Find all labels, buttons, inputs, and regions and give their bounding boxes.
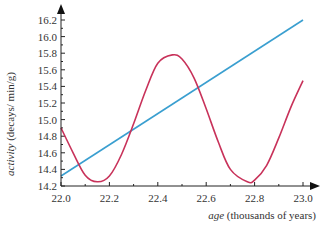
y-tick-label: 16.2: [38, 14, 57, 26]
x-axis-label: age (thousands of years): [208, 209, 316, 222]
x-tick-label: 22.2: [100, 192, 119, 204]
blue-line-series: [61, 20, 303, 176]
y-tick-label: 15.0: [38, 114, 58, 126]
y-axis-label: activity (decays/ min/g): [4, 72, 17, 176]
x-axis-arrow-icon: [310, 182, 320, 190]
x-tick-label: 22.0: [51, 192, 71, 204]
red-curve-series: [61, 55, 303, 183]
y-tick-label: 15.4: [38, 80, 58, 92]
y-tick-label: 15.6: [38, 64, 58, 76]
y-tick-label: 14.8: [38, 130, 58, 142]
y-tick-label: 15.8: [38, 47, 58, 59]
y-axis-arrow-icon: [57, 4, 65, 14]
chart-canvas: 14.214.414.614.815.015.215.415.615.816.0…: [0, 0, 324, 234]
y-tick-label: 14.4: [38, 163, 58, 175]
y-tick-label: 16.0: [38, 31, 58, 43]
y-tick-label: 14.2: [38, 180, 57, 192]
x-tick-label: 22.4: [148, 192, 168, 204]
x-tick-label: 23.0: [293, 192, 313, 204]
y-tick-label: 14.6: [38, 147, 58, 159]
y-tick-label: 15.2: [38, 97, 57, 109]
x-axis-ticks: 22.022.222.422.622.823.0: [51, 182, 313, 204]
x-tick-label: 22.8: [245, 192, 265, 204]
x-tick-label: 22.6: [197, 192, 217, 204]
chart-series: [61, 20, 303, 183]
